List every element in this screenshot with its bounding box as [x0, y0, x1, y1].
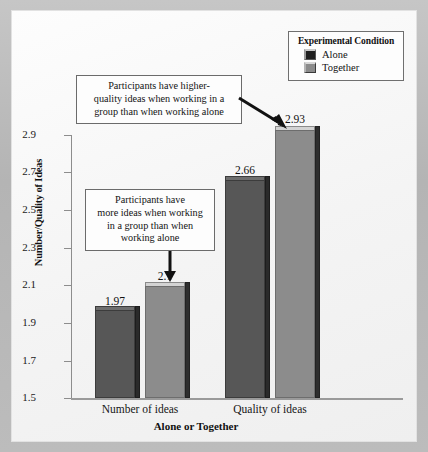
- y-tick-mark: [64, 361, 71, 362]
- y-tick-mark: [64, 398, 71, 399]
- bar-side-face: [135, 306, 140, 398]
- y-tick-mark: [64, 323, 71, 324]
- annotation-callout-number: Participants have more ideas when workin…: [85, 189, 215, 251]
- y-axis-title: Number/Quality of Ideas: [33, 138, 44, 288]
- legend-item-alone[interactable]: Alone: [304, 49, 397, 60]
- y-tick-label-1-7: 1.7: [12, 355, 36, 366]
- bar-side-face: [315, 126, 320, 398]
- legend-label-alone: Alone: [322, 49, 348, 60]
- annotation-arrow-quality-icon: [238, 97, 294, 131]
- annotation-line: Participants have: [90, 194, 210, 207]
- bar-front-face: [275, 130, 315, 398]
- bar-side-face: [265, 176, 270, 398]
- bar-together-quality-of-ideas[interactable]: [275, 130, 315, 398]
- x-axis-title: Alone or Together: [71, 420, 321, 432]
- figure-frame: 2.9 2.7 2.5 2.3 2.1 1.9 1.7 1.5 Number/Q…: [0, 0, 428, 452]
- y-axis-line: [71, 135, 72, 399]
- bar-together-number-of-ideas[interactable]: [145, 286, 185, 398]
- annotation-line: group than when working alone: [81, 106, 237, 119]
- y-tick-mark: [64, 135, 71, 136]
- bar-value-label-alone-number: 1.97: [95, 295, 135, 307]
- bar-value-label-alone-quality: 2.66: [225, 164, 265, 176]
- legend-label-together: Together: [322, 62, 359, 73]
- legend-title: Experimental Condition: [295, 36, 397, 46]
- y-tick-label-1-9: 1.9: [12, 317, 36, 328]
- legend-swatch-alone-icon: [304, 49, 316, 60]
- bar-front-face: [225, 180, 265, 398]
- annotation-line: working alone: [90, 232, 210, 245]
- legend-item-together[interactable]: Together: [304, 62, 397, 73]
- y-tick-mark: [64, 172, 71, 173]
- x-category-label-number-of-ideas: Number of ideas: [85, 403, 195, 415]
- y-tick-mark: [64, 248, 71, 249]
- annotation-line: in a group than when: [90, 220, 210, 233]
- legend: Experimental Condition Alone Together: [288, 31, 404, 81]
- bar-side-face: [185, 282, 190, 398]
- annotation-callout-quality: Participants have higher- quality ideas …: [76, 75, 242, 124]
- bar-front-face: [145, 286, 185, 398]
- x-category-label-quality-of-ideas: Quality of ideas: [215, 403, 325, 415]
- legend-swatch-together-icon: [304, 62, 316, 73]
- bar-alone-number-of-ideas[interactable]: [95, 310, 135, 398]
- annotation-line: quality ideas when working in a: [81, 93, 237, 106]
- y-tick-label-1-5: 1.5: [12, 392, 36, 403]
- y-tick-mark: [64, 285, 71, 286]
- bar-alone-quality-of-ideas[interactable]: [225, 180, 265, 398]
- x-axis-line: [71, 398, 403, 400]
- annotation-line: Participants have higher-: [81, 80, 237, 93]
- annotation-line: more ideas when working: [90, 207, 210, 220]
- y-tick-mark: [64, 210, 71, 211]
- annotation-arrow-number-icon: [162, 251, 178, 283]
- chart-panel: 2.9 2.7 2.5 2.3 2.1 1.9 1.7 1.5 Number/Q…: [12, 11, 416, 441]
- bar-front-face: [95, 310, 135, 398]
